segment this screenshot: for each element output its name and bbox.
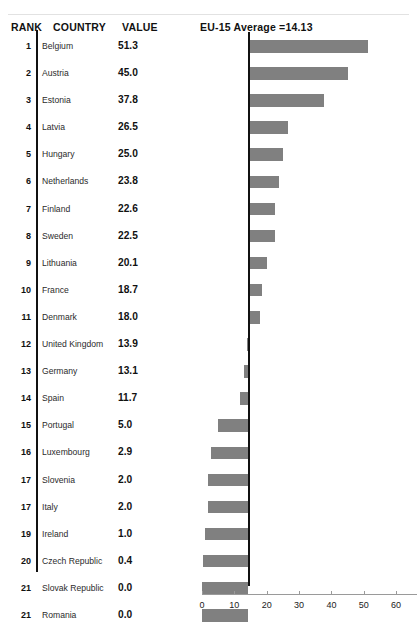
x-tick [202, 591, 203, 595]
figure-caption [6, 618, 336, 626]
x-tick-label: 20 [252, 600, 282, 610]
x-tick [267, 591, 268, 595]
x-tick [234, 591, 235, 595]
x-tick [364, 591, 365, 595]
x-axis: 0102030405060 [0, 0, 417, 628]
x-tick-label: 40 [316, 600, 346, 610]
x-tick [396, 591, 397, 595]
x-tick-label: 0 [187, 600, 217, 610]
x-tick-label: 30 [284, 600, 314, 610]
x-tick-label: 10 [219, 600, 249, 610]
x-tick [331, 591, 332, 595]
x-tick-label: 50 [349, 600, 379, 610]
x-tick [299, 591, 300, 595]
chart-page: RANK COUNTRY VALUE EU-15 Average =14.13 … [0, 0, 417, 628]
x-tick-label: 60 [381, 600, 411, 610]
